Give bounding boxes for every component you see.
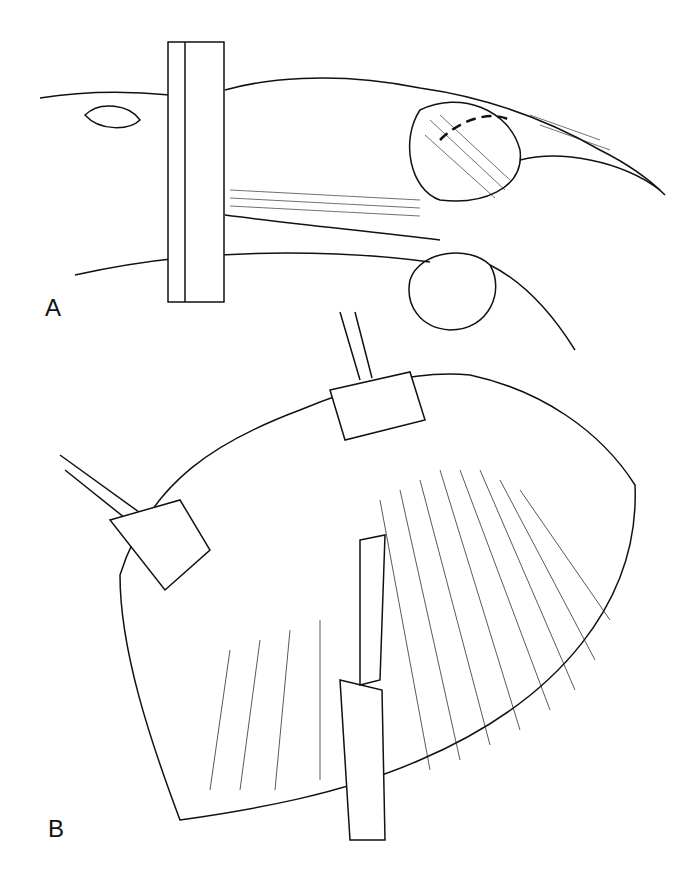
panel-label-b: B bbox=[48, 815, 64, 843]
panel-a-drawing bbox=[40, 42, 665, 350]
panel-label-a: A bbox=[45, 294, 61, 322]
panel-b-drawing bbox=[60, 312, 635, 840]
surgical-illustration bbox=[0, 0, 696, 874]
